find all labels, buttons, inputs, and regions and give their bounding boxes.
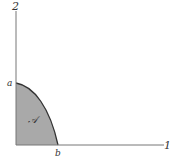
vertical-axis-label: 2: [11, 0, 19, 13]
horizontal-axis-label: 1: [164, 139, 171, 152]
quarter-region-diagram: 2 1 a b 𝒜: [0, 0, 177, 163]
point-b-label: b: [55, 148, 61, 158]
point-a-label: a: [7, 78, 12, 88]
shaded-region: [16, 83, 58, 145]
